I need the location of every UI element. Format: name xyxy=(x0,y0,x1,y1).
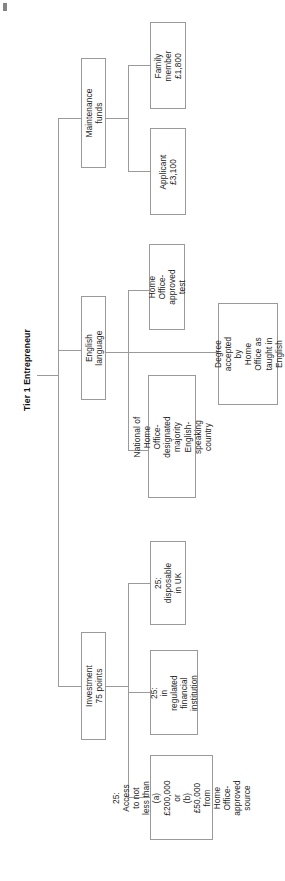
page-title-label: Tier 1 Entrepreneur xyxy=(22,329,32,411)
connector-english-trunk xyxy=(128,290,129,450)
node-investment-label: Investment 75 points xyxy=(83,665,104,707)
node-maintenance-funds[interactable]: Maintenance funds xyxy=(81,58,106,168)
scan-artifact-mark xyxy=(3,3,7,11)
connector-maintenance-to-applicant xyxy=(128,171,150,172)
node-family-member[interactable]: Family member £1,800 xyxy=(150,22,186,109)
connector-maintenance-trunk xyxy=(128,65,129,172)
connector-root-trunk xyxy=(58,118,59,686)
node-access-funds-label: 25: Access to not less than (a) £200,000… xyxy=(111,780,253,815)
connector-investment-trunk xyxy=(128,583,129,797)
connector-english-to-degree xyxy=(106,352,218,353)
connector-investment-to-regulated xyxy=(128,692,150,693)
node-majority-english-country[interactable]: National of Home Office- designated majo… xyxy=(148,375,196,498)
node-applicant[interactable]: Applicant £3,100 xyxy=(150,128,186,215)
node-approved-test-label: Home Office- approved test xyxy=(147,269,187,304)
connector-investment-to-disposable xyxy=(128,583,150,584)
connector-root-to-investment xyxy=(58,686,81,687)
node-degree-english-label: Degree accepted by Home Office as taught… xyxy=(213,337,284,371)
node-english-language-label: English language xyxy=(83,330,104,365)
node-family-member-label: Family member £1,800 xyxy=(153,50,183,81)
node-regulated-institution[interactable]: 25: in regulated financial institution xyxy=(150,650,198,735)
node-access-funds[interactable]: 25: Access to not less than (a) £200,000… xyxy=(150,755,213,840)
node-english-language[interactable]: English language xyxy=(81,296,106,400)
node-degree-english[interactable]: Degree accepted by Home Office as taught… xyxy=(218,303,278,405)
connector-root-to-english xyxy=(58,350,81,351)
diagram-canvas: Tier 1 Entrepreneur Maintenance funds En… xyxy=(0,0,285,881)
node-majority-english-country-label: National of Home Office- designated majo… xyxy=(132,416,213,458)
connector-root-to-maintenance xyxy=(58,118,81,119)
node-investment[interactable]: Investment 75 points xyxy=(81,632,106,740)
node-approved-test[interactable]: Home Office- approved test xyxy=(149,244,185,330)
node-disposable-uk-label: 25: disposable in UK xyxy=(153,563,183,604)
node-regulated-institution-label: 25: in regulated financial institution xyxy=(149,674,200,710)
node-applicant-label: Applicant £3,100 xyxy=(158,154,178,189)
node-maintenance-funds-label: Maintenance funds xyxy=(83,88,104,137)
node-disposable-uk[interactable]: 25: disposable in UK xyxy=(150,541,186,625)
connector-root-stub xyxy=(37,375,58,376)
connector-maintenance-stub xyxy=(106,118,128,119)
connector-maintenance-to-family-member xyxy=(128,65,150,66)
connector-investment-stub xyxy=(106,686,128,687)
